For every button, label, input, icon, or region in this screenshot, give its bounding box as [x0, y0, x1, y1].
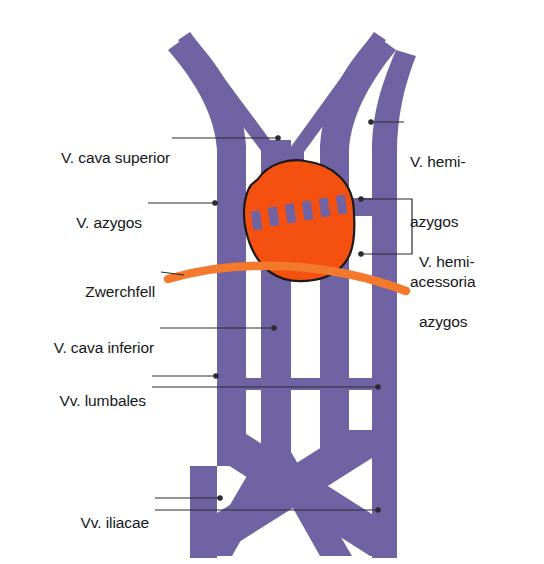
label-hemiazygos-acessoria-line-1: V. hemi-: [410, 152, 540, 172]
label-venae-iliacae: Vv. iliacae: [20, 493, 149, 533]
leader-dot-azygos: [213, 201, 217, 205]
label-venae-lumbales: Vv. lumbales: [20, 371, 146, 411]
label-vena-hemiazygos: V. hemi- azygos: [419, 212, 539, 352]
label-zwerchfell-text: Zwerchfell: [85, 283, 155, 300]
label-vena-cava-superior-text: V. cava superior: [61, 149, 170, 166]
leader-dot-hemiazygos-bottom: [359, 252, 363, 256]
label-venae-iliacae-text: Vv. iliacae: [81, 514, 149, 531]
label-venae-lumbales-text: Vv. lumbales: [60, 392, 146, 409]
label-vena-cava-inferior-text: V. cava inferior: [54, 339, 154, 356]
leader-dot-iliacae-short: [218, 496, 222, 500]
leader-dot-iliacae-long: [376, 508, 380, 512]
label-vena-cava-superior: V. cava superior: [30, 128, 170, 168]
label-hemiazygos-line-2: azygos: [419, 312, 539, 332]
leader-dot-hemiazygos-top: [359, 197, 363, 201]
leader-dot-hemiazygos-acessoria: [369, 120, 373, 124]
label-hemiazygos-line-1: V. hemi-: [419, 252, 539, 272]
leader-dot-lumbales-short: [214, 374, 218, 378]
leader-dot-cava-inferior: [272, 326, 276, 330]
label-vena-azygos: V. azygos: [30, 193, 142, 233]
leader-dot-cava-superior: [276, 136, 280, 140]
leader-dot-lumbales-long: [376, 385, 380, 389]
label-vena-cava-inferior: V. cava inferior: [20, 318, 154, 358]
label-zwerchfell: Zwerchfell: [30, 262, 155, 302]
label-vena-azygos-text: V. azygos: [76, 214, 142, 231]
vena-iliaca-right-stub: [372, 466, 397, 558]
venae-lumbales-transverse: [217, 378, 372, 390]
